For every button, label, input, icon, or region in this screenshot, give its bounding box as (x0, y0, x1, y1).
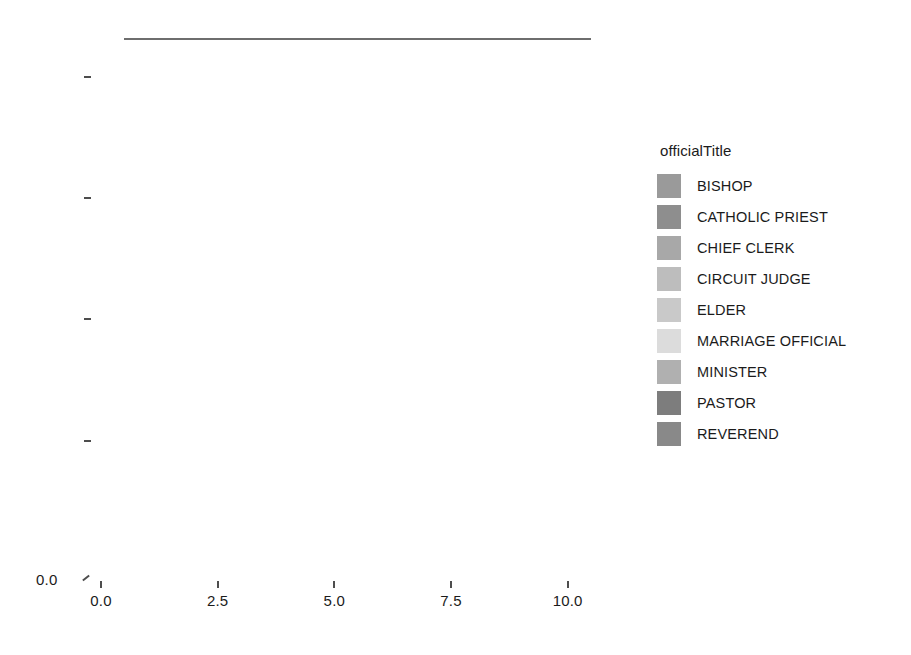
legend-item-label: MARRIAGE OFFICIAL (697, 333, 846, 349)
legend-swatch-icon (657, 329, 681, 353)
legend-title: officialTitle (660, 142, 897, 159)
legend-item-label: CATHOLIC PRIEST (697, 209, 828, 225)
x-axis-tickmark (100, 581, 102, 588)
x-axis-tick-label: 2.5 (207, 592, 228, 609)
legend-swatch-icon (657, 267, 681, 291)
legend-item-label: REVEREND (697, 426, 779, 442)
legend: officialTitle BISHOPCATHOLIC PRIESTCHIEF… (657, 142, 897, 449)
legend-item-label: PASTOR (697, 395, 756, 411)
legend-item-label: CHIEF CLERK (697, 240, 795, 256)
legend-item-label: MINISTER (697, 364, 767, 380)
legend-item[interactable]: MINISTER (657, 356, 897, 387)
x-axis-tick-label: 0.0 (90, 592, 111, 609)
legend-item[interactable]: CATHOLIC PRIEST (657, 201, 897, 232)
legend-items: BISHOPCATHOLIC PRIESTCHIEF CLERKCIRCUIT … (657, 170, 897, 449)
x-axis-tickmark (567, 581, 569, 588)
x-axis-tickmark (450, 581, 452, 588)
legend-swatch-icon (657, 391, 681, 415)
legend-swatch-icon (657, 236, 681, 260)
x-axis-tick-label: 10.0 (553, 592, 583, 609)
legend-item-label: ELDER (697, 302, 746, 318)
legend-item[interactable]: MARRIAGE OFFICIAL (657, 325, 897, 356)
x-axis-tick-label: 5.0 (324, 592, 345, 609)
legend-item-label: BISHOP (697, 178, 753, 194)
chart-canvas: 2.55.07.510.0 0.02.55.07.510.0 0.0 offic… (0, 0, 911, 655)
legend-swatch-icon (657, 298, 681, 322)
legend-item[interactable]: REVEREND (657, 418, 897, 449)
legend-swatch-icon (657, 360, 681, 384)
legend-swatch-icon (657, 174, 681, 198)
x-axis-tick-label: 7.5 (440, 592, 461, 609)
legend-item-label: CIRCUIT JUDGE (697, 271, 811, 287)
x-axis-tickmark (333, 581, 335, 588)
x-axis-tickmark (217, 581, 219, 588)
legend-item[interactable]: CIRCUIT JUDGE (657, 263, 897, 294)
y-axis-origin-label: 0.0 (36, 571, 57, 588)
legend-item[interactable]: ELDER (657, 294, 897, 325)
legend-item[interactable]: PASTOR (657, 387, 897, 418)
legend-item[interactable]: BISHOP (657, 170, 897, 201)
legend-swatch-icon (657, 205, 681, 229)
legend-swatch-icon (657, 422, 681, 446)
legend-item[interactable]: CHIEF CLERK (657, 232, 897, 263)
